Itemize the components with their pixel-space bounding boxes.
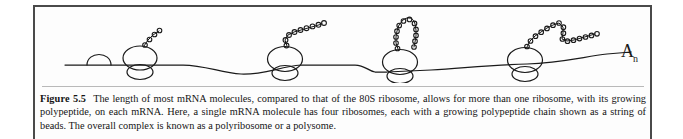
- diagram-type-annotation: polyribosome-schematic: [0, 0, 1, 1]
- mrna-strand: mRNA strand: [65, 52, 631, 74]
- poly-a-tail-label: poly-A tail A n: [621, 41, 638, 64]
- figure-caption-text: The length of most mRNA molecules, compa…: [40, 93, 646, 131]
- caption-separator-rule: [42, 86, 644, 87]
- polyribosome-illustration: mRNA strand small ribosomal subunit scan…: [35, 7, 650, 83]
- polypeptide-chain-2: [283, 21, 326, 48]
- polypeptide-chain-3: [394, 17, 419, 51]
- figure-page: mRNA strand small ribosomal subunit scan…: [0, 0, 683, 139]
- initiation-dome-icon: small ribosomal subunit scanning mRNA: [87, 55, 111, 66]
- ribosome-2: 80S ribosome with longer growing polypep…: [268, 21, 327, 81]
- ribosome-4: 80S ribosome with longest growing polype…: [508, 21, 600, 82]
- ribosome-1: 80S ribosome with short growing polypept…: [123, 28, 162, 79]
- polypeptide-chain-4: [525, 21, 600, 49]
- polypeptide-chain-1: [143, 28, 162, 47]
- figure-number-label: Figure 5.5: [40, 93, 86, 104]
- svg-text:n: n: [633, 53, 638, 64]
- figure-caption: Figure 5.5The length of most mRNA molecu…: [40, 92, 646, 132]
- ribosome-3: 80S ribosome with folded growing polypep…: [383, 17, 419, 83]
